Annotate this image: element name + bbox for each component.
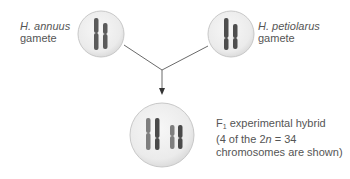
connector-annuus bbox=[124, 45, 162, 70]
cell-type: gamete bbox=[20, 32, 70, 44]
chromosome-long bbox=[224, 18, 229, 50]
chromosome-short-annuus bbox=[170, 125, 175, 149]
chromosome-short bbox=[103, 23, 108, 49]
species-name: H. petiolarus bbox=[258, 20, 320, 32]
connector-lines bbox=[124, 45, 208, 90]
cell-annuus-gamete bbox=[78, 11, 124, 57]
connector-petiolarus bbox=[162, 46, 208, 70]
label-f1-hybrid: F1 experimental hybrid (4 of the 2n = 34… bbox=[216, 117, 343, 159]
cell-type: gamete bbox=[258, 32, 320, 44]
cell-f1-hybrid bbox=[130, 103, 194, 167]
chromosome-short-petiolarus bbox=[178, 125, 183, 149]
arrow-down-icon bbox=[159, 88, 165, 95]
hybrid-note: chromosomes are shown) bbox=[216, 146, 343, 159]
chromosome-long bbox=[94, 18, 99, 50]
label-petiolarus: H. petiolarus gamete bbox=[258, 20, 320, 44]
label-annuus: H. annuus gamete bbox=[20, 20, 70, 44]
hybrid-title: F1 experimental hybrid bbox=[216, 117, 343, 133]
hybrid-chromosome-count: (4 of the 2n = 34 bbox=[216, 133, 343, 146]
species-name: H. annuus bbox=[20, 20, 70, 32]
chromosome-short bbox=[233, 24, 238, 49]
chromosome-long-annuus bbox=[146, 118, 151, 150]
chromosome-long-petiolarus bbox=[155, 118, 160, 150]
cell-petiolarus-gamete bbox=[208, 11, 254, 57]
